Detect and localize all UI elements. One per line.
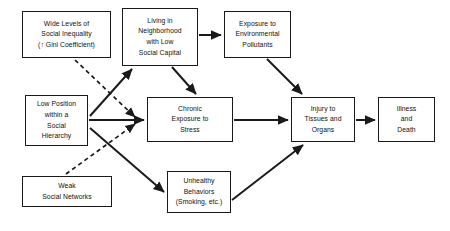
node-label-line: Environmental — [235, 29, 279, 40]
node-label-line: Weak — [58, 181, 75, 192]
node-weak-social-networks[interactable]: WeakSocial Networks — [22, 176, 112, 207]
diagram-canvas: Wide Levels ofSocial Inequality(↑ Gini C… — [0, 0, 450, 231]
node-label-line: Wide Levels of — [44, 19, 89, 30]
node-low-position-social-hierarchy[interactable]: Low Positionwithin aSocialHierarchy — [25, 95, 88, 146]
node-label-line: Behaviors — [184, 187, 215, 198]
edge-unhealthy-behaviors-to-injury — [232, 145, 303, 200]
node-unhealthy-behaviors[interactable]: UnhealthyBehaviors(Smoking, etc.) — [167, 171, 231, 213]
node-label-line: and — [401, 114, 413, 125]
node-label-line: Illness — [397, 104, 417, 115]
node-label-line: Living in — [147, 16, 172, 27]
node-label-line: (Smoking, etc.) — [176, 197, 222, 208]
node-injury-tissues-organs[interactable]: Injury toTissues andOrgans — [291, 97, 355, 142]
node-label-line: Social — [47, 121, 66, 132]
node-label-line: Social Capital — [139, 48, 181, 59]
node-label-line: Social Inequality — [41, 29, 91, 40]
node-label-line: Tissues and — [305, 114, 342, 125]
node-wide-levels-social-inequality[interactable]: Wide Levels ofSocial Inequality(↑ Gini C… — [22, 11, 111, 58]
node-label-line: Exposure to — [172, 114, 209, 125]
node-label-line: Social Networks — [42, 192, 91, 203]
edge-neighborhood-to-stress — [172, 67, 196, 94]
edge-pollutants-to-injury — [267, 59, 302, 94]
node-exposure-environmental-pollutants[interactable]: Exposure toEnvironmentalPollutants — [224, 11, 291, 58]
node-label-line: Exposure to — [239, 19, 276, 30]
node-illness-and-death[interactable]: IllnessandDeath — [378, 97, 435, 142]
node-label-line: with Low — [147, 37, 174, 48]
node-chronic-exposure-stress[interactable]: ChronicExposure toStress — [147, 97, 233, 142]
node-label-line: Low Position — [37, 99, 76, 110]
node-label-line: Chronic — [178, 104, 202, 115]
node-label-line: Pollutants — [242, 40, 272, 51]
node-label-line: Organs — [312, 125, 335, 136]
node-label-line: Death — [397, 125, 415, 136]
node-label-line: Neighborhood — [138, 26, 181, 37]
edge-low-position-to-neighborhood — [90, 69, 132, 116]
node-label-line: within a — [45, 110, 68, 121]
node-label-line: Injury to — [311, 104, 336, 115]
node-label-line: Hierarchy — [42, 131, 72, 142]
node-label-line: Unhealthy — [183, 176, 214, 187]
node-label-line: Stress — [180, 125, 200, 136]
node-living-in-neighborhood[interactable]: Living inNeighborhoodwith LowSocial Capi… — [122, 8, 198, 66]
node-label-line: (↑ Gini Coefficient) — [38, 40, 95, 51]
